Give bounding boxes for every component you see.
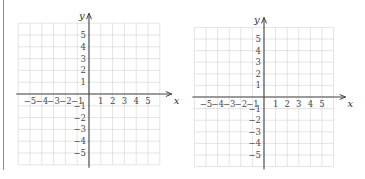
y-tick-label: −4 xyxy=(248,138,261,148)
x-axis-label: x xyxy=(348,98,354,109)
y-tick-label: 2 xyxy=(256,69,261,79)
y-tick-label: −5 xyxy=(248,150,261,160)
y-tick-label: 5 xyxy=(256,34,261,44)
y-tick-label: −3 xyxy=(248,127,261,137)
x-tick-label: 2 xyxy=(284,99,289,109)
x-tick-label: 5 xyxy=(319,99,324,109)
x-tick-label: 1 xyxy=(273,99,278,109)
y-tick-label: −1 xyxy=(248,104,261,114)
x-tick-label: 3 xyxy=(296,99,301,109)
coordinate-plane-right: xy−5−4−3−2−11234554321−1−2−3−4−5 xyxy=(0,0,365,179)
y-tick-label: 4 xyxy=(256,46,261,56)
y-tick-label: 1 xyxy=(256,80,261,90)
y-tick-label: 3 xyxy=(256,57,261,67)
y-tick-label: −2 xyxy=(248,115,261,125)
x-tick-label: 4 xyxy=(308,99,313,109)
y-axis-label: y xyxy=(253,14,260,25)
